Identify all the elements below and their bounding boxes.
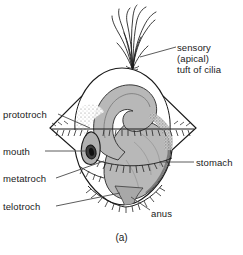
label-sensory-line1: sensory	[177, 42, 221, 53]
label-telotroch: telotroch	[3, 201, 40, 212]
label-prototroch: prototroch	[3, 109, 47, 120]
label-mouth: mouth	[3, 146, 30, 157]
larva-diagram	[0, 0, 243, 255]
label-sensory-tuft-of-cilia: sensory (apical) tuft of cilia	[177, 42, 221, 75]
label-metatroch: metatroch	[3, 173, 46, 184]
trochophore-larva-figure: sensory (apical) tuft of cilia prototroc…	[0, 0, 243, 255]
apical-tuft-of-cilia-icon	[112, 5, 156, 68]
label-anus: anus	[151, 208, 172, 219]
label-sensory-line3: tuft of cilia	[177, 64, 221, 75]
label-sensory-line2: (apical)	[177, 53, 221, 64]
label-stomach: stomach	[196, 157, 233, 168]
figure-caption: (a)	[0, 232, 243, 243]
